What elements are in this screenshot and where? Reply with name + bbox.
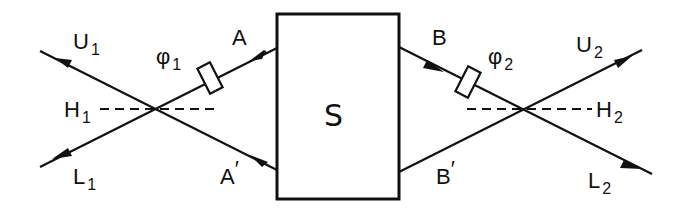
arrow-U2-icon [614,56,632,68]
label-phi1: φ1 [156,44,181,73]
label-phi2: φ2 [488,44,513,73]
label-L2: L2 [588,168,611,197]
label-H1: H1 [64,97,91,126]
label-H2: H2 [596,97,623,126]
phase-shifter-2 [455,66,480,97]
arrow-L2-icon [620,160,642,169]
label-A-prime: A′ [220,156,239,189]
label-B: B [432,25,447,50]
interferometer-diagram: S U1 L1 H1 A A′ φ1 B B′ φ2 U2 H2 L2 [0,0,688,211]
arrow-L1-icon [52,148,72,159]
phase-shifter-1 [197,62,222,93]
label-U2: U2 [576,32,603,61]
label-U1: U1 [73,29,100,58]
arrow-A-icon [248,50,268,62]
label-A: A [232,25,247,50]
label-L1: L1 [73,164,96,193]
label-B-prime: B′ [436,156,455,189]
arrow-B-icon [423,60,444,72]
source-label: S [324,98,343,133]
